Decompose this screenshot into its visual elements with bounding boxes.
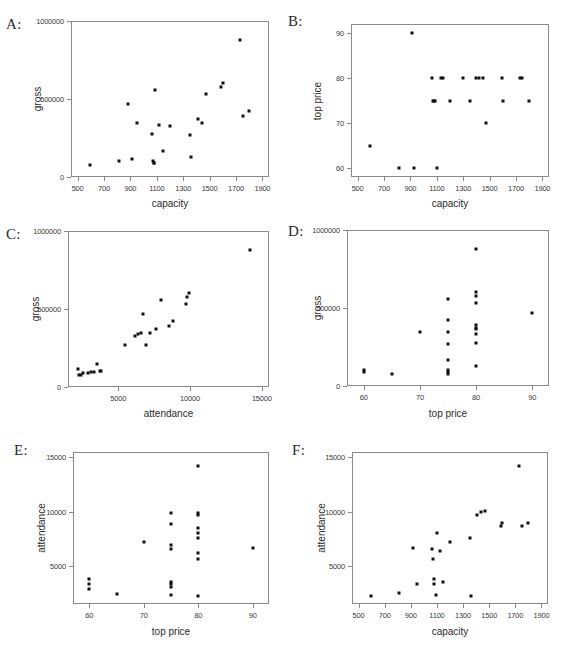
x-tick-label: 500 [353, 611, 365, 620]
x-tick [411, 604, 412, 608]
y-tick [348, 512, 352, 513]
plot-area-f [352, 452, 548, 604]
data-point [527, 521, 530, 524]
y-tick-label: 10000 [0, 507, 345, 516]
data-point [480, 510, 483, 513]
data-point [369, 595, 372, 598]
data-point [411, 546, 414, 549]
y-tick [348, 566, 352, 567]
data-point [518, 465, 521, 468]
data-point [469, 595, 472, 598]
x-tick [463, 604, 464, 608]
data-point [449, 541, 452, 544]
x-tick [385, 604, 386, 608]
y-axis-title-f: attendance [316, 503, 327, 553]
x-tick [541, 604, 542, 608]
data-point [438, 549, 441, 552]
x-axis-title-f: capacity [432, 626, 469, 637]
y-tick-label: 5000 [0, 562, 345, 571]
y-tick [348, 457, 352, 458]
x-tick-label: 1300 [455, 611, 471, 620]
data-point [416, 583, 419, 586]
data-point [432, 578, 435, 581]
y-tick-label: 15000 [0, 453, 345, 462]
x-tick-label: 1700 [507, 611, 523, 620]
x-tick-label: 1500 [481, 611, 497, 620]
data-point [432, 558, 435, 561]
x-tick-label: 700 [379, 611, 391, 620]
x-tick [489, 604, 490, 608]
data-point [468, 536, 471, 539]
data-point [484, 510, 487, 513]
scatterplot-matrix-figure: A:50070090011001300150017001900050000010… [0, 0, 568, 657]
data-point [433, 583, 436, 586]
panel-f: F:50070090011001300150017001900500010000… [0, 0, 568, 657]
data-point [435, 532, 438, 535]
data-point [398, 591, 401, 594]
data-point [430, 547, 433, 550]
data-point [499, 524, 502, 527]
x-tick-label: 1100 [429, 611, 444, 620]
x-tick [437, 604, 438, 608]
data-point [520, 524, 523, 527]
data-point [442, 581, 445, 584]
x-tick-label: 900 [405, 611, 417, 620]
x-tick [515, 604, 516, 608]
data-point [434, 594, 437, 597]
x-tick [359, 604, 360, 608]
data-point [476, 513, 479, 516]
x-tick-label: 1900 [534, 611, 550, 620]
data-point [501, 521, 504, 524]
